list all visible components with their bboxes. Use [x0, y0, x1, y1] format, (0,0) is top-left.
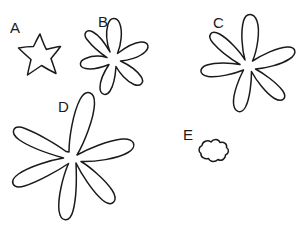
shape-b-outline: [80, 18, 147, 94]
shape-b-group: B: [80, 13, 147, 94]
shape-a-outline: [19, 34, 61, 75]
shape-a-group: A: [10, 19, 61, 75]
shape-d-group: D: [13, 93, 134, 220]
shape-e-label: E: [183, 126, 193, 143]
shape-c-label: C: [213, 14, 224, 31]
shape-e-group: E: [183, 126, 228, 161]
shapes-drawing: A B C D E: [0, 0, 303, 238]
figure-canvas: A B C D E: [0, 0, 303, 238]
shape-a-label: A: [10, 19, 20, 36]
shape-e-outline: [199, 139, 228, 161]
shape-d-label: D: [58, 98, 69, 115]
shape-d-outline: [13, 93, 134, 220]
shape-c-group: C: [201, 14, 295, 112]
shape-b-label: B: [98, 13, 108, 30]
